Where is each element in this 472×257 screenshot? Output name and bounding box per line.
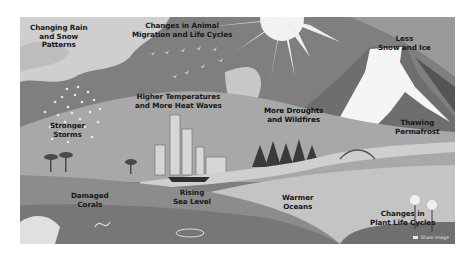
label-plant-life-cycles: Changes inPlant Life Cycles	[370, 210, 435, 227]
label-permafrost: ThawingPermafrost	[395, 119, 439, 136]
label-rain-snow: Changing Rainand SnowPatterns	[30, 24, 87, 50]
label-droughts: More Droughtsand Wildfires	[264, 107, 323, 124]
climate-impacts-illustration: Changing Rainand SnowPatterns Changes in…	[20, 17, 455, 244]
share-icon	[413, 236, 418, 239]
label-animal-migration: Changes in AnimalMigration and Life Cycl…	[132, 22, 232, 39]
label-oceans: WarmerOceans	[282, 194, 313, 211]
label-storms: StrongerStorms	[50, 122, 85, 139]
share-image-button[interactable]: Share Image	[413, 235, 449, 240]
label-corals: DamagedCorals	[71, 192, 109, 209]
label-less-snow: LessSnow and Ice	[378, 35, 431, 52]
label-heat-waves: Higher Temperaturesand More Heat Waves	[135, 93, 222, 110]
label-sea-level: RisingSea Level	[173, 189, 211, 206]
ship-icon	[168, 177, 210, 182]
share-image-label: Share Image	[420, 235, 449, 240]
